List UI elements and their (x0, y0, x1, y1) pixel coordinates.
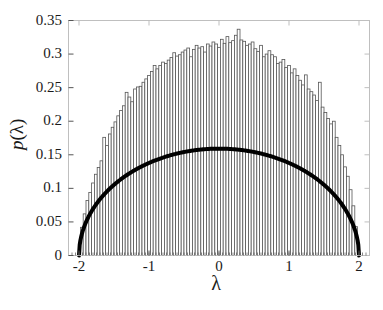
histogram-bar (120, 110, 123, 255)
histogram-bar (92, 183, 95, 256)
histogram-bar (106, 145, 109, 255)
y-tick-label: 0.1 (14, 179, 62, 196)
x-axis-label: λ (186, 272, 246, 295)
x-tick-label: -2 (59, 258, 99, 275)
histogram-bar (89, 192, 92, 255)
histogram-bar (293, 69, 296, 256)
y-tick-label: 0 (14, 247, 62, 264)
y-tick-label: 0.2 (14, 112, 62, 129)
histogram-bar (114, 122, 117, 256)
histogram-bar (100, 161, 103, 256)
histogram-bar (86, 200, 89, 255)
histogram-bar (190, 57, 193, 256)
histogram-bar (164, 63, 167, 255)
histogram-bar (304, 75, 307, 256)
x-tick-label: -1 (129, 258, 169, 275)
histogram-bar (94, 174, 97, 255)
y-tick-label: 0.25 (14, 79, 62, 96)
x-tick-label: 2 (339, 258, 379, 275)
histogram-bar (156, 69, 159, 256)
histogram-bar (237, 29, 240, 255)
histogram-bar (268, 51, 271, 256)
histogram-bar (240, 40, 243, 256)
chart-figure: p(λ) λ 0 0.05 0.1 0.15 0.2 0.25 0.3 0.35… (0, 0, 383, 310)
histogram-bar (318, 82, 321, 255)
histogram-bar (122, 106, 125, 256)
histogram-bar (204, 52, 207, 255)
histogram-bar (131, 102, 134, 256)
histogram-bar (234, 35, 237, 255)
histogram-bar (282, 59, 285, 255)
histogram-bar (260, 45, 263, 255)
histogram-bar (218, 47, 221, 255)
y-tick-label: 0.3 (14, 45, 62, 62)
histogram-bar (226, 37, 229, 256)
histogram-bar (111, 127, 114, 255)
y-tick-label: 0.35 (14, 12, 62, 29)
histogram-bar (142, 82, 145, 255)
histogram-bar (139, 86, 142, 255)
x-tick-label: 1 (269, 258, 309, 275)
histogram-bar (108, 134, 111, 256)
y-tick-label: 0.05 (14, 213, 62, 230)
histogram-bar (145, 79, 148, 256)
histogram-bar (332, 121, 335, 255)
histogram-bar (97, 168, 100, 256)
y-tick-label: 0.15 (14, 146, 62, 163)
x-tick-label: 0 (199, 258, 239, 275)
histogram-bar (117, 116, 120, 256)
histogram-bar (251, 42, 254, 256)
